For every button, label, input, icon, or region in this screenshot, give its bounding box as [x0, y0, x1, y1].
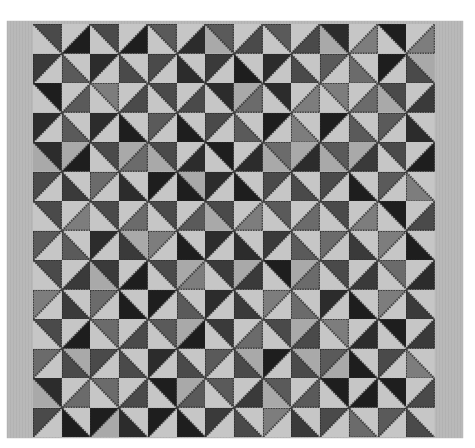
- quilt-cell: [205, 201, 234, 231]
- quilt-cell: [291, 290, 320, 320]
- quilt-cell: [234, 319, 263, 349]
- quilt-cell: [33, 408, 62, 438]
- quilt-cell: [406, 290, 435, 320]
- quilt-cell: [62, 83, 91, 113]
- quilt-cell: [378, 201, 407, 231]
- quilt-cell: [205, 231, 234, 261]
- quilt-cell: [119, 54, 148, 84]
- quilt-cell: [263, 349, 292, 379]
- quilt-cell: [148, 378, 177, 408]
- quilt-cell: [205, 319, 234, 349]
- quilt-cell: [263, 378, 292, 408]
- quilt-cell: [320, 24, 349, 54]
- quilt-cell: [62, 290, 91, 320]
- quilt-cell: [320, 172, 349, 202]
- quilt-cell: [291, 172, 320, 202]
- quilt-cell: [90, 231, 119, 261]
- quilt-cell: [291, 142, 320, 172]
- quilt-cell: [62, 378, 91, 408]
- quilt-cell: [234, 172, 263, 202]
- quilt-cell: [90, 378, 119, 408]
- quilt-cell: [406, 54, 435, 84]
- quilt-cell: [119, 201, 148, 231]
- quilt-cell: [234, 349, 263, 379]
- quilt-cell: [119, 378, 148, 408]
- quilt-cell: [148, 408, 177, 438]
- quilt-cell: [177, 319, 206, 349]
- quilt-cell: [378, 142, 407, 172]
- quilt-cell: [119, 113, 148, 143]
- quilt-cell: [119, 349, 148, 379]
- quilt-cell: [119, 260, 148, 290]
- quilt-cell: [205, 142, 234, 172]
- quilt-cell: [33, 54, 62, 84]
- quilt-cell: [406, 113, 435, 143]
- quilt-cell: [320, 319, 349, 349]
- quilt-cell: [349, 54, 378, 84]
- quilt-cell: [90, 172, 119, 202]
- quilt-cell: [205, 54, 234, 84]
- quilt-cell: [378, 319, 407, 349]
- quilt-cell: [378, 83, 407, 113]
- quilt-cell: [177, 83, 206, 113]
- quilt-cell: [205, 349, 234, 379]
- quilt-cell: [33, 319, 62, 349]
- quilt-cell: [148, 260, 177, 290]
- quilt-cell: [148, 54, 177, 84]
- quilt-cell: [62, 172, 91, 202]
- quilt-cell: [177, 231, 206, 261]
- quilt-cell: [177, 260, 206, 290]
- quilt-cell: [177, 408, 206, 438]
- quilt-cell: [291, 349, 320, 379]
- quilt-cell: [205, 24, 234, 54]
- quilt-cell: [148, 83, 177, 113]
- quilt-cell: [263, 408, 292, 438]
- quilt-cell: [406, 349, 435, 379]
- quilt-cell: [205, 260, 234, 290]
- quilt-cell: [406, 142, 435, 172]
- quilt-cell: [119, 319, 148, 349]
- quilt-cell: [90, 113, 119, 143]
- quilt-cell: [148, 142, 177, 172]
- quilt: [7, 21, 463, 438]
- quilt-cell: [62, 54, 91, 84]
- quilt-cell: [234, 113, 263, 143]
- quilt-cell: [406, 231, 435, 261]
- quilt-cell: [378, 24, 407, 54]
- quilt-cell: [177, 290, 206, 320]
- quilt-cell: [234, 290, 263, 320]
- quilt-cell: [205, 113, 234, 143]
- quilt-cell: [291, 201, 320, 231]
- quilt-cell: [33, 83, 62, 113]
- quilt-cell: [263, 113, 292, 143]
- quilt-cell: [320, 113, 349, 143]
- quilt-cell: [291, 83, 320, 113]
- quilt-cell: [406, 378, 435, 408]
- quilt-cell: [378, 113, 407, 143]
- quilt-cell: [234, 142, 263, 172]
- quilt-cell: [148, 231, 177, 261]
- quilt-cell: [349, 408, 378, 438]
- quilt-cell: [33, 113, 62, 143]
- quilt-cell: [406, 201, 435, 231]
- quilt-cell: [205, 290, 234, 320]
- quilt-cell: [33, 172, 62, 202]
- quilt-cell: [378, 172, 407, 202]
- quilt-cell: [33, 24, 62, 54]
- quilt-cell: [33, 201, 62, 231]
- quilt-cell: [148, 349, 177, 379]
- quilt-cell: [234, 83, 263, 113]
- quilt-cell: [90, 142, 119, 172]
- quilt-cell: [234, 378, 263, 408]
- quilt-cell: [349, 201, 378, 231]
- quilt-cell: [406, 319, 435, 349]
- quilt-cell: [378, 54, 407, 84]
- quilt-cell: [291, 54, 320, 84]
- quilt-cell: [263, 83, 292, 113]
- quilt-cell: [320, 142, 349, 172]
- quilt-cell: [119, 408, 148, 438]
- quilt-cell: [320, 408, 349, 438]
- quilt-cell: [148, 319, 177, 349]
- quilt-cell: [90, 54, 119, 84]
- quilt-cell: [320, 231, 349, 261]
